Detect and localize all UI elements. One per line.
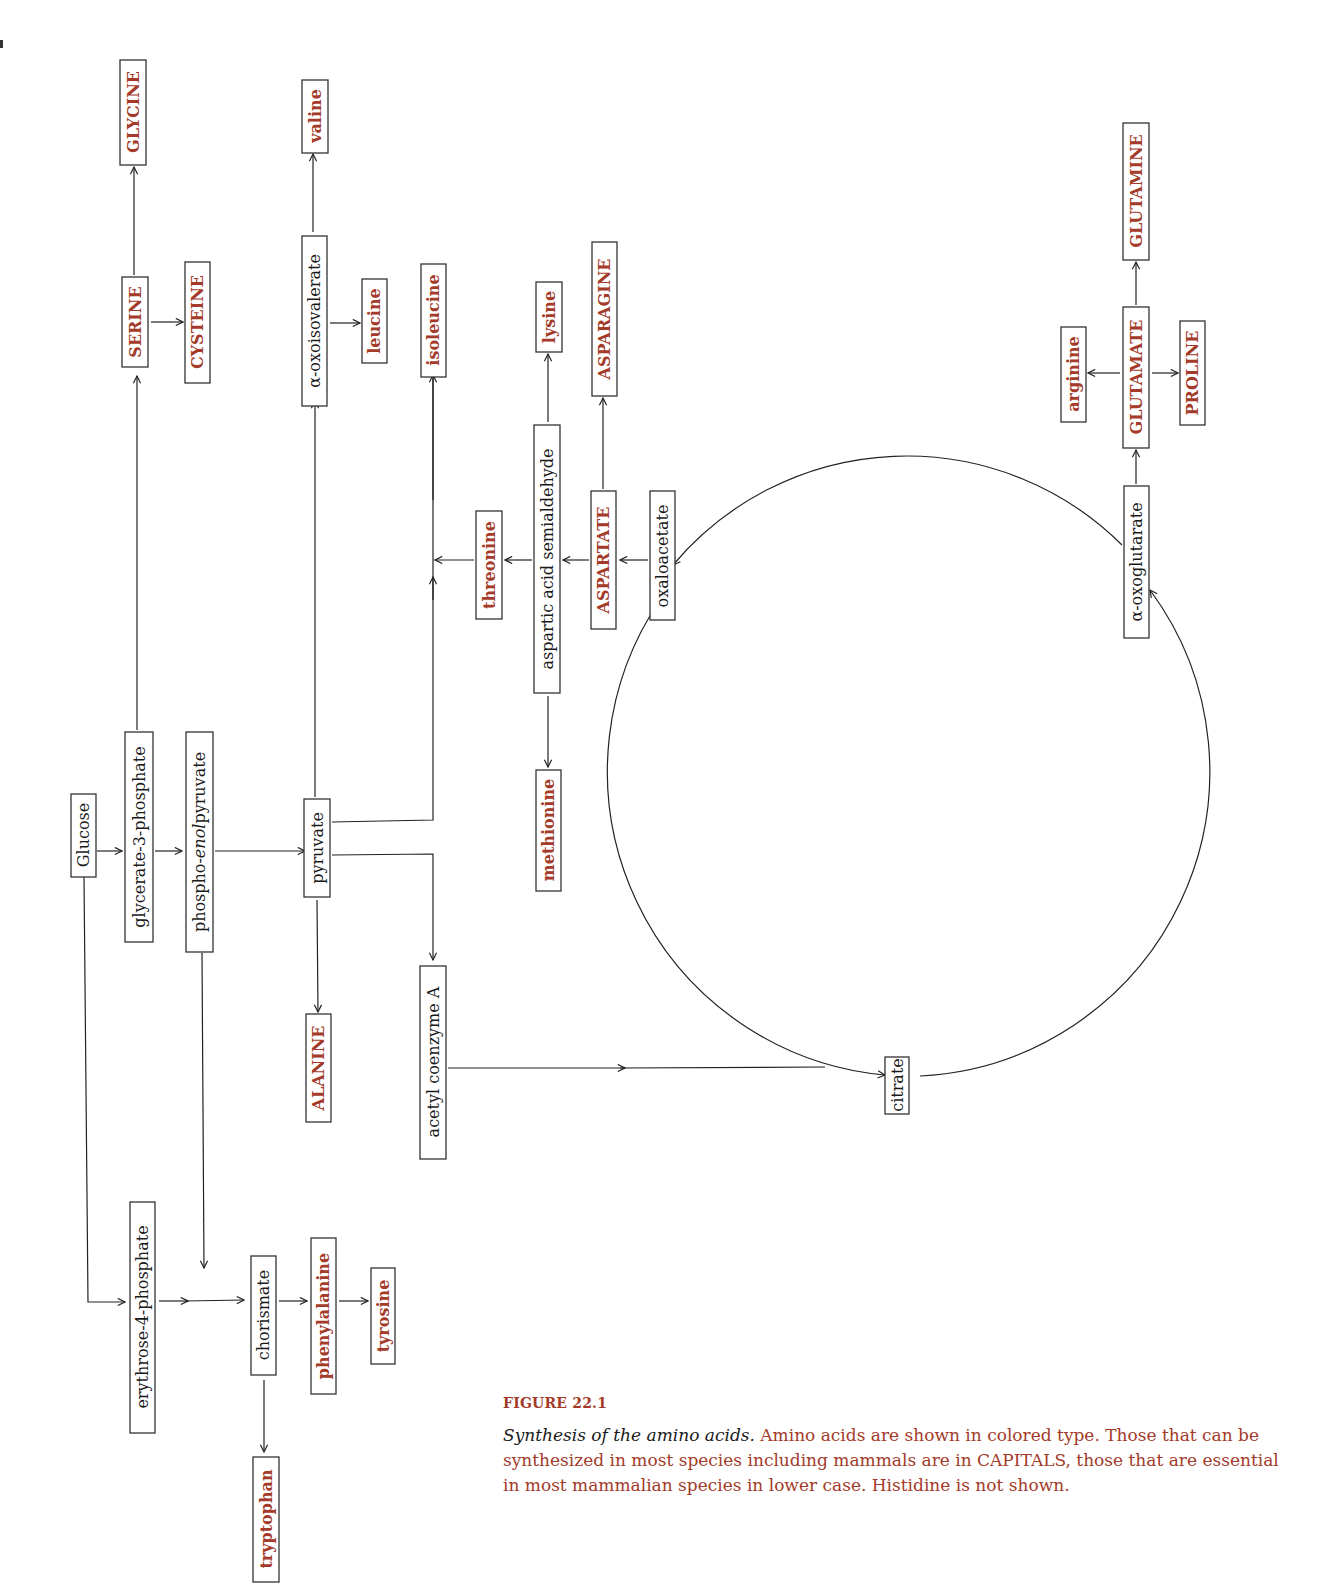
node-aspartate: ASPARTATE — [591, 491, 616, 629]
node-oxoglutarate: α-oxoglutarate — [1124, 486, 1149, 638]
node-glycine: GLYCINE — [120, 60, 146, 165]
node-label: SERINE — [126, 286, 145, 357]
node-label: erythrose-4-phosphate — [133, 1225, 152, 1408]
node-label: GLYCINE — [124, 71, 143, 153]
node-label: lysine — [540, 291, 559, 343]
node-label: Glucose — [74, 803, 93, 867]
node-proline: PROLINE — [1180, 321, 1205, 425]
node-label: PROLINE — [1183, 331, 1202, 416]
node-label: citrate — [888, 1058, 907, 1112]
amino-acid-synthesis-diagram: Glucose glycerate-3-phosphate phospho-en… — [0, 0, 1317, 1591]
node-erythrose-4-phosphate: erythrose-4-phosphate — [130, 1202, 155, 1433]
node-label: aspartic acid semialdehyde — [538, 448, 557, 669]
node-pyruvate: pyruvate — [304, 799, 330, 897]
node-label: enol — [190, 824, 209, 859]
node-citrate: citrate — [885, 1057, 909, 1114]
node-label: tryptophan — [257, 1469, 276, 1569]
node-arginine: arginine — [1061, 327, 1086, 422]
node-label: valine — [306, 89, 325, 144]
node-alanine: ALANINE — [306, 1014, 331, 1122]
node-label: phenylalanine — [314, 1253, 333, 1379]
figure-caption: FIGURE 22.1 Synthesis of the amino acids… — [503, 1395, 1283, 1498]
node-glycerate-3-phosphate: glycerate-3-phosphate — [125, 732, 153, 942]
svg-text:phospho-enolpyruvate: phospho-enolpyruvate — [190, 752, 209, 932]
node-label: isoleucine — [424, 274, 443, 365]
node-label: ALANINE — [309, 1025, 328, 1111]
node-phosphoenolpyruvate: phospho-enolpyruvate — [186, 732, 213, 952]
node-lysine: lysine — [536, 282, 562, 352]
node-chorismate: chorismate — [251, 1256, 276, 1375]
node-label: pyruvate — [308, 812, 327, 884]
node-label: chorismate — [254, 1270, 273, 1360]
node-label: leucine — [365, 288, 384, 354]
node-glutamate: GLUTAMATE — [1123, 307, 1149, 448]
node-label: oxaloacetate — [653, 505, 672, 608]
node-leucine: leucine — [362, 279, 387, 363]
node-threonine: threonine — [476, 511, 502, 619]
node-label: acetyl coenzyme A — [424, 986, 443, 1137]
node-valine: valine — [302, 80, 328, 153]
node-phenylalanine: phenylalanine — [311, 1238, 336, 1394]
node-label: α-oxoglutarate — [1127, 502, 1146, 621]
node-label: tyrosine — [374, 1280, 393, 1353]
node-label: threonine — [480, 521, 499, 609]
node-methionine: methionine — [536, 770, 561, 891]
citric-acid-cycle — [607, 456, 1209, 1076]
node-glucose: Glucose — [71, 794, 96, 877]
node-label: glycerate-3-phosphate — [130, 746, 149, 927]
node-label: pyruvate — [190, 752, 209, 824]
node-label: arginine — [1064, 336, 1083, 412]
node-oxoisovalerate: α-oxoisovalerate — [302, 236, 327, 406]
node-isoleucine: isoleucine — [421, 264, 446, 377]
node-glutamine: GLUTAMINE — [1123, 123, 1149, 260]
node-label: α-oxoisovalerate — [305, 254, 324, 388]
node-label: ASPARTATE — [594, 507, 613, 615]
node-label: GLUTAMATE — [1127, 320, 1146, 435]
node-label: CYSTEINE — [188, 275, 207, 369]
node-serine: SERINE — [122, 277, 148, 367]
node-label: ASPARAGINE — [595, 259, 614, 381]
node-cysteine: CYSTEINE — [185, 262, 210, 383]
figure-description: Synthesis of the amino acids. Amino acid… — [503, 1423, 1283, 1498]
node-asparagine: ASPARAGINE — [592, 242, 617, 396]
node-acetyl-coenzyme-a: acetyl coenzyme A — [420, 966, 446, 1159]
node-label: methionine — [539, 779, 558, 881]
node-label: phospho- — [190, 858, 209, 932]
pathway-lines — [84, 154, 1178, 1452]
figure-label: FIGURE 22.1 — [503, 1395, 1283, 1411]
node-oxaloacetate: oxaloacetate — [650, 491, 675, 620]
node-label: GLUTAMINE — [1127, 134, 1146, 247]
node-tyrosine: tyrosine — [371, 1268, 395, 1364]
node-tryptophan: tryptophan — [253, 1457, 279, 1582]
node-aspartic-acid-semialdehyde: aspartic acid semialdehyde — [534, 425, 560, 693]
figure-title: Synthesis of the amino acids. — [503, 1425, 755, 1445]
